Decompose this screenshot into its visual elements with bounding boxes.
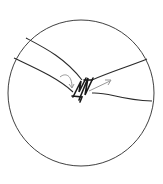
right-segment (92, 59, 152, 101)
curved-arrow (60, 75, 74, 88)
diagram-canvas (0, 0, 163, 184)
suture-stitches (72, 78, 93, 102)
straight-arrow-shaft (89, 81, 110, 91)
left-segment-top-edge (26, 38, 82, 80)
suture-line-3 (72, 96, 82, 102)
straight-arrow (89, 80, 111, 91)
right-segment-bottom-edge (92, 93, 152, 101)
right-segment-top-edge (92, 59, 147, 80)
